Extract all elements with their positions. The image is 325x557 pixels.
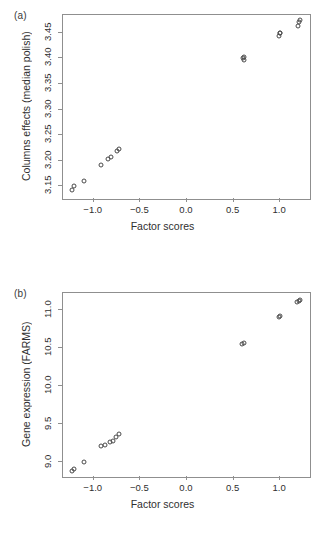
panel-a-plot-area — [63, 15, 310, 199]
y-axis-tick-label: 9.0 — [42, 448, 53, 474]
x-axis-tick-label: 0.5 — [226, 204, 239, 215]
panel-b: (b) Gene expression (FARMS) Factor score… — [0, 278, 325, 557]
data-point — [298, 17, 303, 22]
x-axis-tick — [139, 476, 140, 480]
x-axis-tick-label: −1.0 — [83, 482, 102, 493]
panel-a-y-axis-title: Columns effects (median polish) — [20, 14, 32, 198]
y-axis-tick-label: 3.25 — [42, 121, 53, 147]
x-axis-tick-label: −0.5 — [130, 482, 149, 493]
x-axis-tick — [233, 476, 234, 480]
y-axis-tick-label: 10.0 — [42, 372, 53, 398]
x-axis-tick-label: 0.0 — [179, 204, 192, 215]
y-axis-tick — [58, 461, 62, 462]
x-axis-tick — [279, 198, 280, 202]
y-axis-tick — [58, 32, 62, 33]
y-axis-tick-label: 3.20 — [42, 147, 53, 173]
y-axis-tick — [58, 347, 62, 348]
y-axis-tick — [58, 57, 62, 58]
y-axis-tick-label: 3.45 — [42, 19, 53, 45]
y-axis-tick-label: 3.15 — [42, 172, 53, 198]
data-point — [298, 298, 303, 303]
y-axis-tick — [58, 385, 62, 386]
x-axis-tick — [233, 198, 234, 202]
x-axis-tick-label: 1.0 — [273, 204, 286, 215]
x-axis-tick-label: 0.0 — [179, 482, 192, 493]
panel-a: (a) Columns effects (median polish) Fact… — [0, 0, 325, 278]
y-axis-tick — [58, 83, 62, 84]
y-axis-tick-label: 3.40 — [42, 44, 53, 70]
panel-a-x-axis-title: Factor scores — [0, 220, 325, 232]
y-axis-tick-label: 10.5 — [42, 334, 53, 360]
x-axis-tick-label: −1.0 — [83, 204, 102, 215]
data-point — [98, 162, 103, 167]
data-point — [278, 30, 283, 35]
data-point — [81, 179, 86, 184]
data-point — [71, 467, 76, 472]
y-axis-tick — [58, 423, 62, 424]
data-point — [71, 184, 76, 189]
data-point — [117, 146, 122, 151]
x-axis-tick — [93, 476, 94, 480]
x-axis-tick — [186, 198, 187, 202]
panel-b-y-axis-title: Gene expression (FARMS) — [20, 292, 32, 476]
x-axis-tick-label: 0.5 — [226, 482, 239, 493]
x-axis-tick — [139, 198, 140, 202]
y-axis-tick-label: 3.30 — [42, 96, 53, 122]
x-axis-tick — [93, 198, 94, 202]
data-point — [295, 24, 300, 29]
data-point — [81, 459, 86, 464]
panel-b-plot-area — [63, 293, 310, 477]
y-axis-tick — [58, 185, 62, 186]
x-axis-tick — [279, 476, 280, 480]
x-axis-tick — [186, 476, 187, 480]
figure-scatter-pair: (a) Columns effects (median polish) Fact… — [0, 0, 325, 557]
y-axis-tick-label: 11.0 — [42, 296, 53, 322]
data-point — [242, 340, 247, 345]
panel-a-plot-box — [62, 14, 311, 200]
x-axis-tick-label: 1.0 — [273, 482, 286, 493]
data-point — [278, 314, 283, 319]
y-axis-tick — [58, 309, 62, 310]
y-axis-tick-label: 9.5 — [42, 410, 53, 436]
y-axis-tick — [58, 160, 62, 161]
panel-b-x-axis-title: Factor scores — [0, 498, 325, 510]
x-axis-tick-label: −0.5 — [130, 204, 149, 215]
data-point — [109, 154, 114, 159]
panel-b-plot-box — [62, 292, 311, 478]
y-axis-tick-label: 3.35 — [42, 70, 53, 96]
data-point — [242, 57, 247, 62]
y-axis-tick — [58, 109, 62, 110]
data-point — [117, 432, 122, 437]
y-axis-tick — [58, 134, 62, 135]
